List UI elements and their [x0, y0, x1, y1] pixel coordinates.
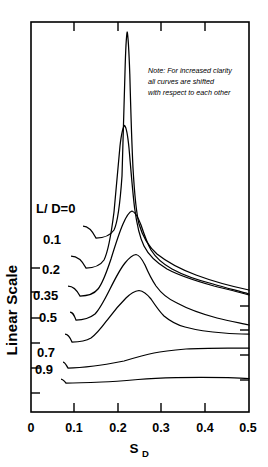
curve-label-ld-0: L/ D=0 — [36, 201, 75, 216]
curve-ld-0p1 — [86, 126, 249, 296]
x-axis-title-subscript: D — [142, 448, 149, 459]
curve-label-ld-0p35: 0.35 — [33, 288, 58, 303]
leader-ld-0p35 — [70, 312, 76, 320]
x-axis-title-main: S — [129, 441, 138, 456]
curve-labels-group: L/ D=0 0.1 0.2 0.35 0.5 0.7 0.9 — [33, 201, 75, 377]
x-tick-label-4: 0.4 — [196, 421, 213, 435]
curve-ld-0p7 — [68, 348, 249, 368]
curve-label-ld-0p9: 0.9 — [35, 362, 53, 377]
curve-ld-0p5 — [72, 291, 249, 343]
curve-ld-0p9 — [66, 377, 249, 383]
leader-ld-0p2 — [68, 286, 80, 296]
x-tick-label-1: 0.1 — [65, 421, 82, 435]
curve-label-ld-0p7: 0.7 — [37, 345, 55, 360]
leader-ld-0 — [83, 226, 96, 238]
x-tick-label-5: 0.5 — [239, 421, 256, 435]
x-tick-label-3: 0.3 — [152, 421, 169, 435]
x-tick-label-2: 0.2 — [109, 421, 126, 435]
y-axis-title-text: Linear Scale — [3, 265, 20, 356]
x-axis-tick-labels: 0 0.1 0.2 0.3 0.4 0.5 — [28, 421, 257, 435]
x-tick-label-0: 0 — [28, 421, 35, 435]
plot-canvas: L/ D=0 0.1 0.2 0.35 0.5 0.7 0.9 Note: Fo… — [0, 0, 268, 467]
x-axis-ticks-top — [74, 22, 205, 31]
curve-label-ld-0p2: 0.2 — [42, 262, 60, 277]
y-axis-ticks-right — [240, 306, 249, 380]
curve-label-leaders — [61, 226, 96, 383]
leader-ld-0p7 — [63, 362, 68, 368]
y-axis-title: Linear Scale — [3, 265, 20, 356]
x-axis-title: S D — [129, 441, 149, 459]
note-line-1: Note: For increased clarity — [148, 66, 232, 75]
curve-label-ld-0p5: 0.5 — [39, 310, 57, 325]
leader-ld-0p9 — [61, 379, 66, 383]
chart-figure: L/ D=0 0.1 0.2 0.35 0.5 0.7 0.9 Note: Fo… — [0, 0, 268, 467]
note-line-2: all curves are shifted — [148, 77, 215, 86]
curve-label-ld-0p1: 0.1 — [43, 232, 61, 247]
plot-frame — [31, 22, 249, 412]
leader-ld-0p1 — [71, 256, 86, 268]
note-line-3: with respect to each other — [148, 88, 231, 97]
leader-ld-0p5 — [65, 334, 72, 342]
x-axis-ticks-bottom — [74, 403, 205, 412]
note-annotation: Note: For increased clarity all curves a… — [148, 66, 232, 97]
